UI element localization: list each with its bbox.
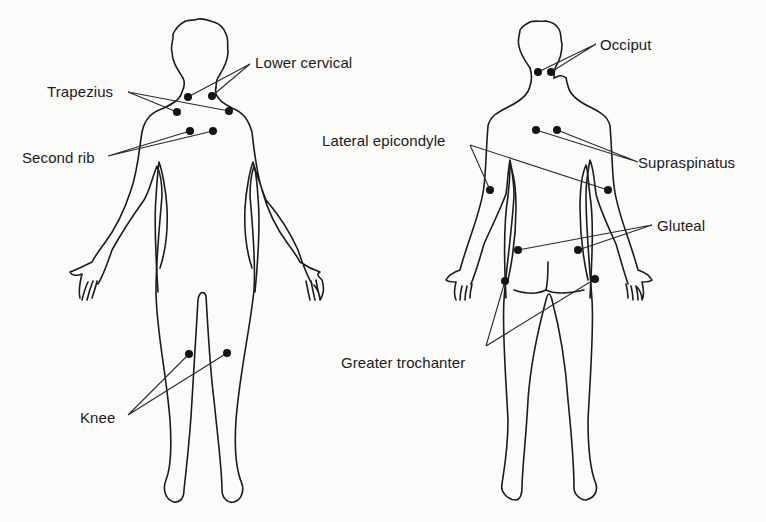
dot-lateral-epicondyle-left: [486, 186, 494, 194]
dot-greater-trochanter-left: [501, 277, 509, 285]
dot-supraspinatus-right: [553, 126, 561, 134]
dot-lower-cervical-left: [208, 92, 216, 100]
leader-supraspinatus: [536, 130, 638, 162]
leader-occiput: [538, 44, 596, 72]
dot-occiput-left: [534, 68, 542, 76]
dot-knee-left: [223, 349, 231, 357]
leader-second-rib: [108, 131, 213, 156]
label-supraspinatus: Supraspinatus: [638, 155, 735, 170]
dot-knee-right: [185, 350, 193, 358]
dot-lower-cervical-right: [184, 93, 192, 101]
dot-gluteal-left: [514, 246, 522, 254]
dot-occiput-right: [547, 68, 555, 76]
label-knee: Knee: [80, 410, 115, 425]
front-body-outline: [70, 78, 323, 502]
leader-greater-trochanter: [486, 279, 595, 346]
label-occiput: Occiput: [600, 37, 652, 52]
tender-points-diagram: Trapezius Lower cervical Second rib Knee…: [0, 0, 766, 522]
body-outlines: [0, 0, 766, 522]
front-head-outline: [171, 19, 228, 88]
label-second-rib: Second rib: [22, 150, 95, 165]
dot-trapezius-right: [173, 108, 181, 116]
dot-lateral-epicondyle-right: [604, 186, 612, 194]
dot-greater-trochanter-right: [591, 275, 599, 283]
dot-supraspinatus-left: [532, 126, 540, 134]
dot-trapezius-left: [225, 107, 233, 115]
dot-second-rib-left: [209, 127, 217, 135]
back-figure: [446, 21, 652, 500]
leader-lower-cervical: [188, 64, 250, 97]
label-lower-cervical: Lower cervical: [255, 55, 352, 70]
dot-gluteal-right: [574, 246, 582, 254]
label-greater-trochanter: Greater trochanter: [341, 355, 465, 370]
back-body-outline: [446, 68, 652, 500]
dot-second-rib-right: [186, 127, 194, 135]
leader-gluteal: [518, 225, 652, 250]
label-gluteal: Gluteal: [657, 218, 705, 233]
label-trapezius: Trapezius: [47, 84, 113, 99]
label-lateral-epicondyle: Lateral epicondyle: [322, 133, 446, 148]
gluteal-cleft: [546, 262, 548, 290]
